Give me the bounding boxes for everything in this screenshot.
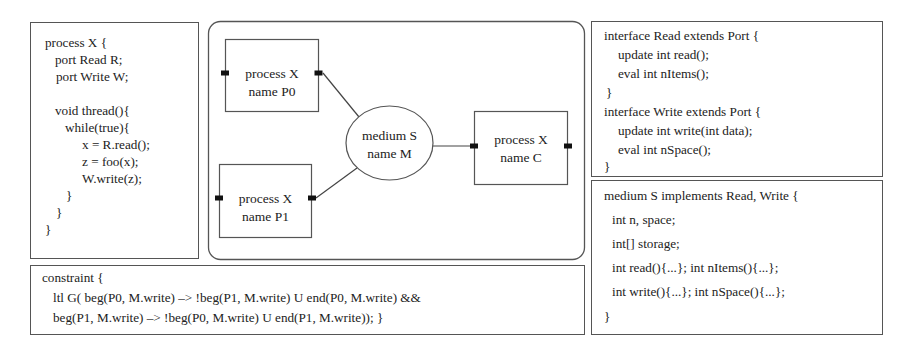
connection-p0-m [323,73,359,117]
node-label: medium S [362,128,417,143]
code-line: medium S implements Read, Write { [604,188,799,203]
code-line: interface Read extends Port { [604,28,759,43]
code-line: update int read(); [618,47,709,62]
node-label: process X [494,132,548,147]
node-label: process X [245,66,299,81]
medium-code-box [591,180,883,335]
node-label: name M [367,146,412,161]
code-line: eval int nItems(); [618,66,709,81]
code-line: constraint { [42,270,104,285]
code-line: int write(){...}; int nSpace(){...}; [612,284,785,299]
connection-p1-m [316,168,357,198]
code-line: ltl G( beg(P0, M.write) –> !beg(P1, M.wr… [53,290,421,305]
code-line: int[] storage; [612,236,680,251]
code-line: } [606,85,612,100]
port-icon [564,144,572,149]
port-icon [308,196,316,201]
code-line: } [604,159,610,174]
medium-node-m[interactable] [346,106,433,180]
code-line: update int write(int data); [618,123,752,138]
code-line: eval int nSpace(); [618,142,711,157]
node-label: process X [239,191,293,206]
node-label: name P1 [242,209,289,224]
port-icon [470,144,478,149]
port-icon [215,196,223,201]
code-line: interface Write extends Port { [604,104,761,119]
code-line: int read(){...}; int nItems(){...}; [612,260,778,275]
port-icon [315,71,323,76]
code-line: } [604,309,610,324]
process-node-c[interactable] [470,112,572,185]
code-line: beg(P1, M.write) –> !beg(P0, M.write) U … [53,310,383,325]
node-label: name C [500,150,542,165]
port-icon [221,71,229,76]
node-label: name P0 [249,84,296,99]
code-line: int n, space; [612,212,675,227]
